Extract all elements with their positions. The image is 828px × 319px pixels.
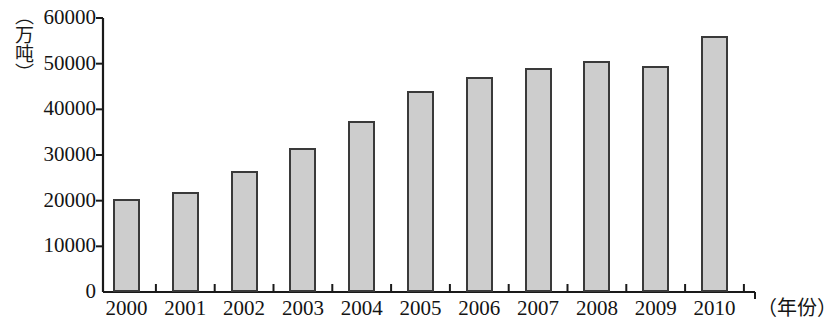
bar: [289, 148, 316, 292]
x-axis-unit-label: （年份）: [757, 296, 828, 319]
bar: [701, 36, 728, 292]
bar: [642, 66, 669, 292]
bar: [113, 199, 140, 292]
x-axis-tick-label: 2010: [680, 296, 750, 319]
bar: [525, 68, 552, 292]
bar: [231, 171, 258, 292]
bar: [348, 121, 375, 292]
bar: [172, 192, 199, 292]
x-axis-tick-labels: 2000200120022003200420052006200720082009…: [0, 296, 817, 319]
bar: [407, 91, 434, 292]
bar: [466, 77, 493, 292]
bar: [583, 61, 610, 292]
